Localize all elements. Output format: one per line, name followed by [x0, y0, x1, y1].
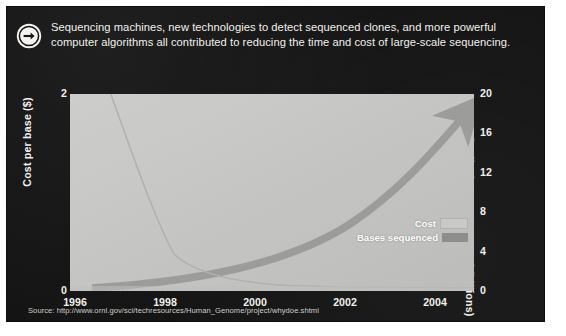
plot-area: Cost Bases sequenced: [70, 94, 474, 291]
legend-label-bases-sequenced: Bases sequenced: [357, 232, 438, 243]
legend-item-cost: Cost: [415, 218, 468, 229]
plot-svg: [70, 94, 474, 291]
y-tick-right-8: 8: [480, 205, 506, 217]
infographic-root: Sequencing machines, new technologies to…: [0, 0, 566, 336]
callout-text: Sequencing machines, new technologies to…: [51, 20, 521, 51]
x-tick-label-2002: 2002: [323, 296, 367, 308]
legend-swatch-bases-sequenced: [442, 233, 468, 242]
x-tick-mark-1999: [210, 291, 211, 297]
y-tick-right-12: 12: [480, 166, 506, 178]
source-text: Source: http://www.ornl.gov/sci/techreso…: [28, 306, 319, 315]
legend-swatch-cost: [440, 218, 468, 229]
legend-item-bases-sequenced: Bases sequenced: [357, 232, 468, 243]
arrow-right-circle-icon: [16, 23, 42, 49]
y-tick-left-0: 0: [27, 284, 67, 296]
dark-panel: Sequencing machines, new technologies to…: [6, 6, 545, 322]
chart-container: Cost per base ($) Quality bases sequence…: [6, 84, 545, 322]
x-tick-mark-1997: [120, 291, 121, 297]
x-tick-mark-2003: [390, 291, 391, 297]
callout-banner: Sequencing machines, new technologies to…: [16, 20, 536, 51]
y-tick-right-20: 20: [480, 87, 506, 99]
chart-legend: Cost Bases sequenced: [357, 218, 468, 243]
y-tick-right-4: 4: [480, 245, 506, 257]
y-tick-right-0: 0: [480, 284, 506, 296]
y-tick-left-2: 2: [27, 87, 67, 99]
x-tick-mark-2001: [300, 291, 301, 297]
legend-label-cost: Cost: [415, 218, 436, 229]
y-tick-right-16: 16: [480, 126, 506, 138]
x-tick-label-2004: 2004: [413, 296, 457, 308]
